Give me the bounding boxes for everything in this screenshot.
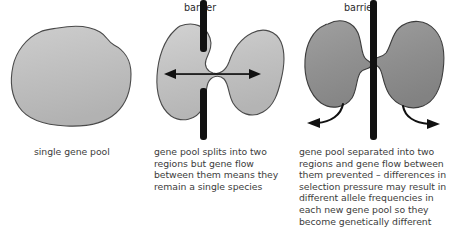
barrier-bar — [370, 0, 377, 140]
barrier-bar-upper — [200, 0, 207, 52]
panel-split-with-gene-flow: barrier gene pool splits — [150, 0, 295, 233]
panel-1-artwork — [0, 0, 150, 142]
panel-1-caption: single gene pool — [34, 146, 154, 158]
panel-separated-gene-pools: barrier — [295, 0, 453, 233]
gene-pool-blob-right — [374, 21, 444, 107]
gene-pool-blob-left — [305, 21, 372, 107]
panel-single-gene-pool: single gene pool — [0, 0, 150, 233]
panel-3-artwork — [295, 0, 453, 142]
panel-2-artwork — [150, 0, 295, 142]
divergence-arrow-left — [307, 104, 343, 128]
panel-2-caption: gene pool splits into two regions but ge… — [154, 146, 296, 192]
divergence-arrow-right — [403, 106, 440, 129]
gene-pool-blob — [11, 26, 131, 126]
panel-3-caption: gene pool separated into two regions and… — [299, 146, 453, 227]
barrier-bar-lower — [200, 88, 207, 140]
